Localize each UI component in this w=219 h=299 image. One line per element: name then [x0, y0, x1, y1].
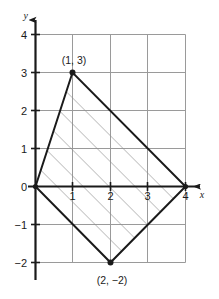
vertex-point-1-3 [70, 70, 76, 76]
vertex-point-2-neg2 [108, 260, 114, 266]
y-axis-label: y [23, 10, 29, 21]
origin-label: 0 [21, 181, 27, 193]
y-tick-label-4: 4 [21, 29, 27, 41]
vertex-label-top: (1, 3) [62, 54, 87, 66]
x-tick-label-4: 4 [182, 190, 188, 202]
y-tick-label-1: 1 [21, 143, 27, 155]
y-tick-label-2: 2 [21, 105, 27, 117]
coordinate-plane-figure: 4 3 2 1 0 −1 −2 1 2 3 4 y x (1, 3) (2, −… [0, 0, 219, 299]
x-tick-label-1: 1 [69, 190, 75, 202]
y-tick-label-neg2: −2 [14, 257, 27, 269]
x-axis-label: x [199, 189, 205, 200]
graph-svg: 4 3 2 1 0 −1 −2 1 2 3 4 y x (1, 3) (2, −… [0, 0, 219, 299]
x-tick-label-2: 2 [107, 190, 113, 202]
y-tick-label-3: 3 [21, 67, 27, 79]
y-tick-label-neg1: −1 [14, 219, 27, 231]
vertex-point-0-0 [33, 184, 38, 189]
vertex-point-4-0 [183, 184, 188, 189]
vertex-label-bottom: (2, −2) [97, 274, 128, 286]
x-tick-label-3: 3 [144, 190, 150, 202]
